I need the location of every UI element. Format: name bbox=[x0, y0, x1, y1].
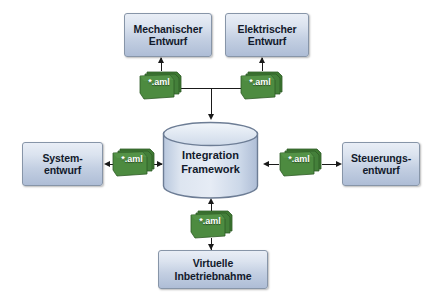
arrowhead-up-elektrisch bbox=[259, 57, 265, 63]
diagram-canvas: Mechanischer Entwurf Elektrischer Entwur… bbox=[0, 0, 435, 295]
node-steuerungsentwurf-line2: entwurf bbox=[351, 164, 411, 176]
node-virtuelle-inbetriebnahme-line2: Inbetriebnahme bbox=[175, 270, 252, 282]
file-aml-steuerung[interactable]: *.aml bbox=[279, 147, 323, 180]
node-elektrischer-entwurf[interactable]: Elektrischer Entwurf bbox=[225, 13, 309, 57]
arrowhead-down-framework bbox=[208, 114, 214, 120]
arrowhead-down-virtuelle bbox=[208, 244, 214, 250]
node-elektrischer-entwurf-line1: Elektrischer bbox=[238, 23, 297, 35]
node-virtuelle-inbetriebnahme[interactable]: Virtuelle Inbetriebnahme bbox=[158, 250, 268, 289]
aml-file-stack-icon bbox=[190, 209, 234, 242]
node-steuerungsentwurf[interactable]: Steuerungs- entwurf bbox=[342, 142, 420, 186]
node-steuerungsentwurf-line1: Steuerungs- bbox=[351, 152, 411, 164]
file-aml-elektrisch[interactable]: *.aml bbox=[240, 70, 284, 103]
aml-file-stack-icon bbox=[240, 70, 284, 103]
node-systementwurf[interactable]: System- entwurf bbox=[22, 142, 103, 186]
arrowhead-right-steuerungsentwurf bbox=[336, 161, 342, 167]
connector-top-bus bbox=[178, 88, 246, 89]
file-aml-system[interactable]: *.aml bbox=[112, 147, 156, 180]
database-cylinder-icon bbox=[162, 121, 259, 199]
arrowhead-left-systementwurf bbox=[104, 161, 110, 167]
file-aml-virtuelle[interactable]: *.aml bbox=[190, 209, 234, 242]
aml-file-stack-icon bbox=[112, 147, 156, 180]
node-mechanischer-entwurf[interactable]: Mechanischer Entwurf bbox=[124, 13, 212, 57]
aml-file-stack-icon bbox=[139, 70, 183, 103]
node-systementwurf-line2: entwurf bbox=[42, 164, 82, 176]
node-mechanischer-entwurf-line1: Mechanischer bbox=[134, 23, 203, 35]
arrowhead-left-framework-right bbox=[263, 161, 269, 167]
node-mechanischer-entwurf-line2: Entwurf bbox=[134, 35, 203, 47]
aml-file-stack-icon bbox=[279, 147, 323, 180]
node-elektrischer-entwurf-line2: Entwurf bbox=[238, 35, 297, 47]
node-virtuelle-inbetriebnahme-line1: Virtuelle bbox=[175, 257, 252, 269]
integration-framework-node[interactable]: Integration Framework bbox=[162, 121, 259, 199]
connector-bus-to-framework bbox=[211, 88, 212, 115]
arrowhead-up-mechanisch bbox=[158, 57, 164, 63]
file-aml-mechanisch[interactable]: *.aml bbox=[139, 70, 183, 103]
node-systementwurf-line1: System- bbox=[42, 152, 82, 164]
